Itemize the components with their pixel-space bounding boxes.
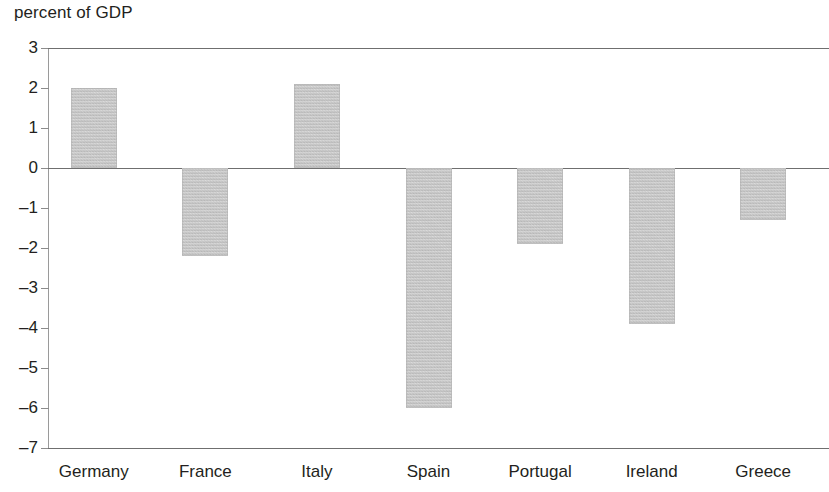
bar: [294, 84, 340, 168]
x-axis-label: Ireland: [596, 462, 708, 482]
x-axis-label: Greece: [707, 462, 819, 482]
y-axis-label-text: 1: [4, 119, 38, 136]
x-axis-label: Italy: [261, 462, 373, 482]
y-axis-label-text: –3: [4, 279, 38, 296]
gridline-bottom: [48, 448, 829, 449]
x-axis-label: Germany: [38, 462, 150, 482]
bar: [182, 168, 228, 256]
chart-title: percent of GDP: [14, 2, 133, 24]
y-axis-label-text: –5: [4, 359, 38, 376]
bar: [406, 168, 452, 408]
bar: [740, 168, 786, 220]
bar-chart: percent of GDP 3210–1–2–3–4–5–6–7 German…: [0, 0, 829, 492]
plot-area: [48, 48, 829, 448]
y-axis-label-text: 0: [4, 159, 38, 176]
y-axis-label-text: –4: [4, 319, 38, 336]
y-axis-label-text: –6: [4, 399, 38, 416]
bar: [629, 168, 675, 324]
y-axis-label-text: 2: [4, 79, 38, 96]
y-axis-label-text: –2: [4, 239, 38, 256]
bar: [517, 168, 563, 244]
y-axis-label-text: 3: [4, 39, 38, 56]
bar: [71, 88, 117, 168]
gridline-top: [48, 48, 829, 49]
x-axis-label: Portugal: [484, 462, 596, 482]
y-axis-label-text: –7: [4, 439, 38, 456]
x-axis-label: France: [150, 462, 262, 482]
x-axis-label: Spain: [373, 462, 485, 482]
y-axis-label-text: –1: [4, 199, 38, 216]
